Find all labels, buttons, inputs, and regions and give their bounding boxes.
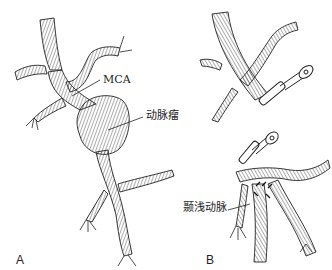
panel-b-top-vessels [200,12,298,122]
aneurysm-clip-bottom [238,130,281,165]
panel-a-vessels [15,18,174,256]
mca-label: MCA [103,74,131,85]
panel-b-bottom-vessels [236,160,330,262]
aneurysm-clip-top [258,63,315,106]
sta-label: 颞浅动脉 [183,202,227,213]
panel-label-b: B [206,253,214,267]
panel-label-a: A [16,253,24,267]
aneurysm-label: 动脉瘤 [146,110,179,121]
illustration [0,0,332,270]
